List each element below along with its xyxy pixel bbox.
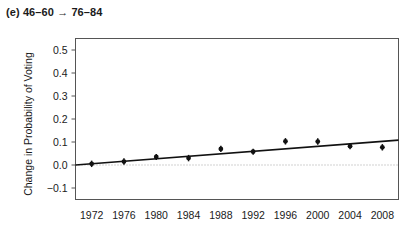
y-axis-ticks: −0.10.00.10.20.30.40.5 [47, 44, 76, 194]
data-point [348, 144, 353, 149]
data-point [154, 155, 159, 160]
data-point [186, 156, 191, 161]
chart-plot-area: −0.10.00.10.20.30.40.5 19721976198019841… [0, 0, 414, 240]
data-point [315, 139, 320, 144]
data-point [251, 149, 256, 154]
y-tick-label: 0.4 [53, 67, 68, 79]
y-tick-label: 0.1 [53, 136, 68, 148]
x-tick-label: 1972 [80, 209, 104, 221]
data-point [218, 147, 223, 152]
x-tick-label: 2008 [371, 209, 395, 221]
x-tick-label: 1996 [274, 209, 298, 221]
data-point [122, 159, 127, 164]
data-point [89, 161, 94, 166]
x-tick-label: 1984 [177, 209, 201, 221]
y-tick-label: 0.0 [53, 159, 68, 171]
y-tick-label: 0.2 [53, 113, 68, 125]
x-tick-label: 1980 [145, 209, 169, 221]
figure-panel: (e) 46–60 → 76–84 Change in Probability … [0, 0, 414, 240]
data-point [380, 145, 385, 150]
y-tick-label: 0.5 [53, 44, 68, 56]
plot-frame [76, 39, 399, 200]
data-point [283, 139, 288, 144]
x-tick-label: 1992 [241, 209, 265, 221]
x-tick-label: 2000 [306, 209, 330, 221]
x-axis-ticks: 1972197619801984198819921996200020042008 [80, 209, 394, 221]
y-tick-label: −0.1 [47, 182, 68, 194]
x-tick-label: 2004 [338, 209, 362, 221]
x-tick-label: 1976 [112, 209, 136, 221]
x-tick-label: 1988 [209, 209, 233, 221]
y-tick-label: 0.3 [53, 90, 68, 102]
